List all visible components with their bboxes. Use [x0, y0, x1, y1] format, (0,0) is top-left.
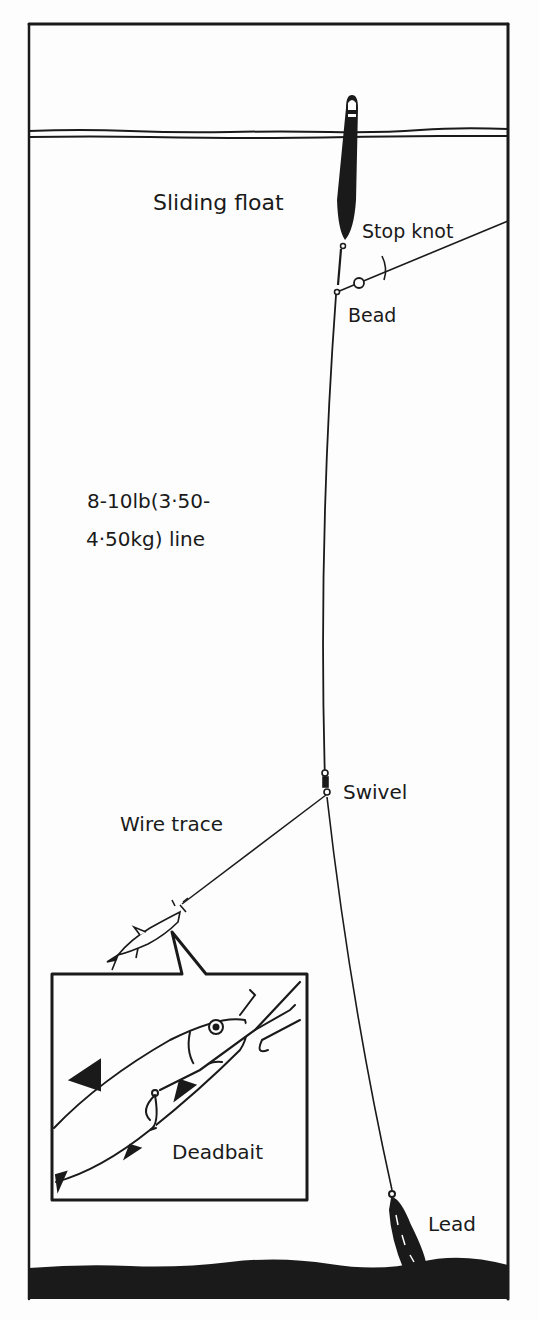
label-line-1: 8-10lb(3·50- — [87, 489, 210, 513]
label-swivel: Swivel — [343, 780, 407, 804]
rig-diagram: Sliding float Stop knot Bead 8-10lb(3·50… — [0, 0, 539, 1320]
label-line-2: 4·50kg) line — [86, 527, 205, 551]
main-line — [323, 295, 336, 780]
bead-icon — [354, 278, 364, 288]
sliding-float-icon — [335, 95, 359, 295]
small-deadbait-icon — [107, 898, 188, 970]
lead-weight-icon — [389, 1191, 426, 1278]
label-wire-trace: Wire trace — [120, 812, 223, 836]
label-bead: Bead — [348, 304, 396, 326]
label-deadbait: Deadbait — [172, 1140, 263, 1164]
swivel-icon — [322, 770, 330, 795]
label-sliding-float: Sliding float — [153, 190, 284, 215]
label-lead: Lead — [428, 1212, 476, 1236]
stop-knot-icon — [382, 256, 386, 280]
water-surface — [29, 128, 508, 138]
lower-line — [327, 797, 392, 1190]
lake-bed — [29, 1258, 508, 1299]
label-stop-knot: Stop knot — [362, 220, 453, 242]
